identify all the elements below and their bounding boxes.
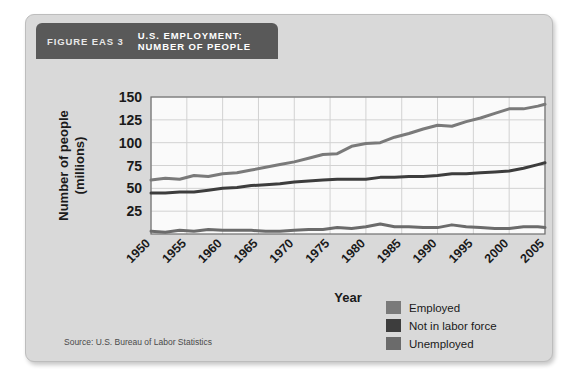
x-axis-tick-label: 1980 [338, 236, 368, 266]
legend-swatch [386, 301, 401, 314]
legend-swatch [386, 319, 401, 332]
x-axis-tick-label: 1955 [159, 236, 189, 266]
y-axis-title: (millions) [72, 137, 87, 195]
x-axis-tick-label: 1960 [195, 236, 225, 266]
x-axis-tick-label: 1995 [446, 236, 476, 266]
x-axis-title: Year [334, 290, 361, 305]
legend-item: Employed [386, 301, 497, 314]
figure-title-line-2: NUMBER OF PEOPLE [138, 41, 251, 53]
x-axis-tick-label: 1965 [231, 236, 261, 266]
legend-label: Unemployed [409, 338, 474, 350]
y-axis-tick-label: 100 [119, 135, 143, 151]
y-axis-tick-label: 75 [126, 158, 142, 174]
y-axis-tick-labels: 255075100125150 [119, 89, 143, 219]
x-axis-tick-label: 1990 [410, 236, 440, 266]
legend-label: Not in labor force [409, 320, 497, 332]
y-axis-tick-label: 50 [126, 180, 142, 196]
x-axis-tick-label: 2000 [482, 236, 512, 266]
figure-card: FIGURE EAS 3 U.S. EMPLOYMENT: NUMBER OF … [25, 14, 553, 362]
x-axis-tick-label: 1970 [267, 236, 297, 266]
legend-label: Employed [409, 302, 460, 314]
figure-title-bar: FIGURE EAS 3 U.S. EMPLOYMENT: NUMBER OF … [36, 23, 278, 59]
figure-number-label: FIGURE EAS 3 [47, 36, 124, 47]
y-axis-tick-label: 150 [119, 89, 143, 105]
y-axis-title: Number of people [56, 110, 71, 221]
x-axis-tick-label: 1985 [374, 236, 404, 266]
source-note: Source: U.S. Bureau of Labor Statistics [64, 337, 212, 347]
legend-item: Unemployed [386, 337, 497, 350]
x-axis-tick-label: 2005 [518, 236, 548, 266]
y-axis-tick-label: 25 [126, 203, 142, 219]
legend-item: Not in labor force [386, 319, 497, 332]
x-axis-tick-label: 1950 [124, 236, 154, 266]
y-axis-tick-label: 125 [119, 112, 143, 128]
legend-swatch [386, 337, 401, 350]
chart-legend: EmployedNot in labor forceUnemployed [386, 301, 497, 350]
x-axis-tick-labels: 1950195519601965197019751980198519901995… [124, 236, 548, 266]
figure-title: U.S. EMPLOYMENT: NUMBER OF PEOPLE [138, 30, 251, 53]
x-axis-tick-label: 1975 [303, 236, 333, 266]
figure-title-line-1: U.S. EMPLOYMENT: [138, 30, 251, 42]
